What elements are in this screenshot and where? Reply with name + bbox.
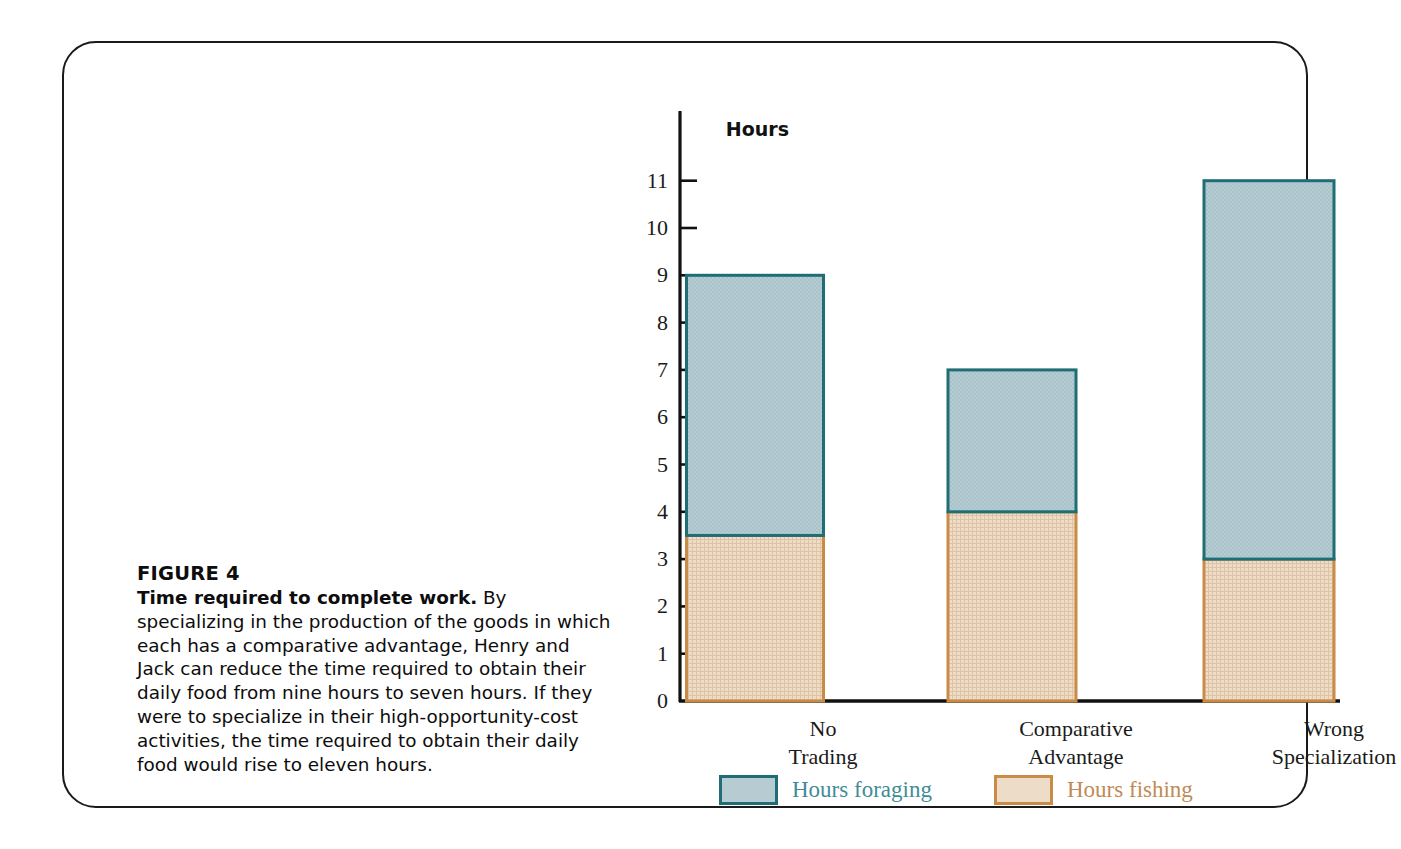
x-axis-category-label: NoTrading <box>708 715 938 771</box>
y-axis-tick-label: 1 <box>628 641 668 667</box>
caption-body: By specializing in the production of the… <box>137 587 611 775</box>
bar-segment-foraging <box>948 370 1076 512</box>
figure-frame: FIGURE 4 Time required to complete work.… <box>62 41 1308 808</box>
chart-legend: Hours foragingHours fishing <box>624 775 1384 825</box>
y-axis-tick-label: 5 <box>628 452 668 478</box>
y-axis-tick-label: 4 <box>628 499 668 525</box>
legend-entry: Hours foraging <box>719 775 932 805</box>
caption-text: Time required to complete work. By speci… <box>137 586 612 777</box>
y-axis-tick-label: 9 <box>628 262 668 288</box>
category-label-line: Wrong <box>1219 715 1401 743</box>
figure-caption: FIGURE 4 Time required to complete work.… <box>137 562 612 777</box>
caption-lead: Time required to complete work. <box>137 587 477 608</box>
x-axis-category-label: ComparativeAdvantage <box>961 715 1191 771</box>
category-label-line: Trading <box>708 743 938 771</box>
y-axis-tick-label: 11 <box>628 168 668 194</box>
legend-swatch-fishing-icon <box>994 775 1053 805</box>
chart: Hours 01234567891011 NoTradingComparativ… <box>624 103 1384 843</box>
y-axis-tick-label: 8 <box>628 310 668 336</box>
legend-label: Hours foraging <box>792 777 932 803</box>
y-axis-tick-label: 3 <box>628 546 668 572</box>
legend-swatch-foraging-icon <box>719 775 778 805</box>
figure-number: FIGURE 4 <box>137 562 612 585</box>
bar-segment-fishing <box>948 512 1076 701</box>
bar-segment-foraging <box>1204 181 1334 559</box>
y-axis-tick-label: 10 <box>628 215 668 241</box>
category-label-line: No <box>708 715 938 743</box>
legend-entry: Hours fishing <box>994 775 1193 805</box>
bar-segment-foraging <box>687 275 824 535</box>
category-label-line: Advantage <box>961 743 1191 771</box>
y-axis-tick-label: 0 <box>628 688 668 714</box>
bar-segment-fishing <box>1204 559 1334 701</box>
y-axis-tick-label: 2 <box>628 593 668 619</box>
legend-label: Hours fishing <box>1067 777 1193 803</box>
category-label-line: Specialization <box>1219 743 1401 771</box>
bar-segment-fishing <box>687 535 824 701</box>
x-axis-category-label: WrongSpecialization <box>1219 715 1401 771</box>
category-label-line: Comparative <box>961 715 1191 743</box>
y-axis-tick-label: 6 <box>628 404 668 430</box>
y-axis-tick-label: 7 <box>628 357 668 383</box>
